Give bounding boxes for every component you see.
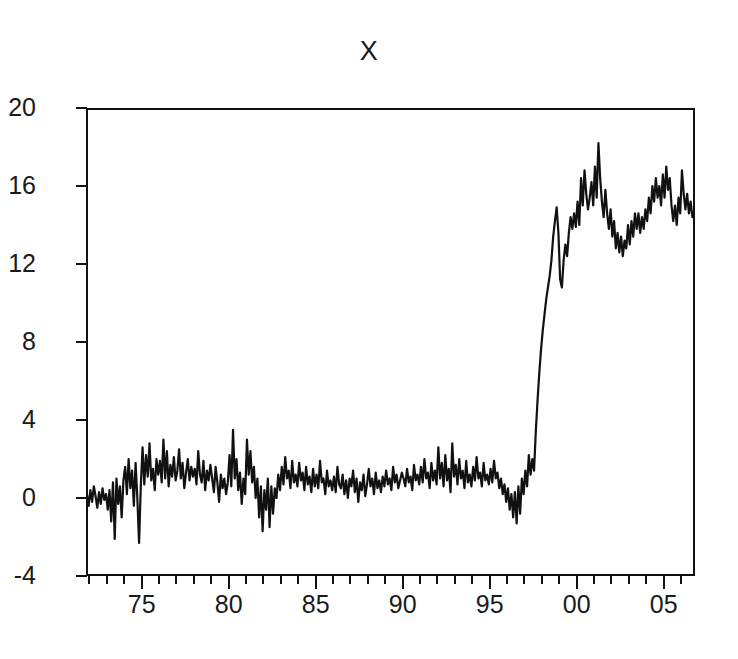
plot-area	[86, 108, 695, 576]
x-tick-label: 05	[634, 592, 694, 617]
x-tick-minor	[280, 576, 282, 584]
y-tick-label: 12	[8, 251, 36, 276]
x-tick-label: 80	[199, 592, 259, 617]
y-tick-label: 4	[22, 407, 36, 432]
y-tick-label: 16	[8, 173, 36, 198]
x-tick-minor	[297, 576, 299, 584]
x-tick-major	[315, 576, 318, 589]
x-tick-minor	[436, 576, 438, 584]
x-tick-minor	[645, 576, 647, 584]
y-tick-label: 0	[22, 485, 36, 510]
x-tick-minor	[680, 576, 682, 584]
series-line-x	[86, 108, 695, 576]
x-tick-minor	[106, 576, 108, 584]
x-tick-major	[402, 576, 405, 589]
x-tick-major	[228, 576, 231, 589]
y-tick-label: 20	[8, 95, 36, 120]
x-tick-minor	[384, 576, 386, 584]
x-tick-minor	[123, 576, 125, 584]
x-tick-minor	[454, 576, 456, 584]
x-tick-minor	[367, 576, 369, 584]
x-tick-minor	[158, 576, 160, 584]
chart-title: X	[0, 36, 738, 67]
x-tick-label: 90	[373, 592, 433, 617]
x-tick-major	[663, 576, 666, 589]
x-tick-minor	[175, 576, 177, 584]
y-tick-label: -4	[14, 563, 36, 588]
x-tick-minor	[523, 576, 525, 584]
x-tick-major	[489, 576, 492, 589]
x-tick-minor	[349, 576, 351, 584]
x-tick-minor	[332, 576, 334, 584]
x-tick-major	[576, 576, 579, 589]
x-tick-label: 85	[286, 592, 346, 617]
x-tick-minor	[541, 576, 543, 584]
x-tick-minor	[210, 576, 212, 584]
x-tick-label: 75	[112, 592, 172, 617]
x-tick-label: 00	[547, 592, 607, 617]
x-tick-minor	[506, 576, 508, 584]
x-tick-minor	[610, 576, 612, 584]
x-tick-minor	[193, 576, 195, 584]
x-tick-label: 95	[460, 592, 520, 617]
x-tick-minor	[262, 576, 264, 584]
x-tick-minor	[419, 576, 421, 584]
x-tick-minor	[593, 576, 595, 584]
x-tick-minor	[245, 576, 247, 584]
x-tick-minor	[628, 576, 630, 584]
x-tick-major	[141, 576, 144, 589]
x-tick-minor	[558, 576, 560, 584]
y-tick-label: 8	[22, 329, 36, 354]
x-tick-minor	[88, 576, 90, 584]
chart-figure: X 201612840-4 75808590950005	[0, 0, 738, 659]
x-tick-minor	[471, 576, 473, 584]
